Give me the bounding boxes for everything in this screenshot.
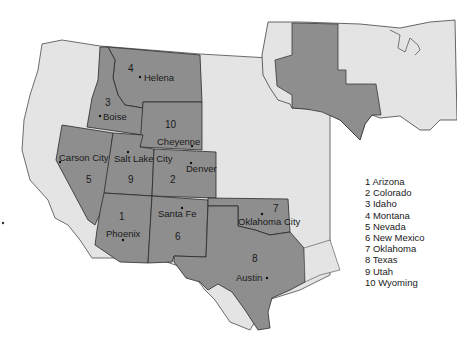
state-number-8: 8 (252, 253, 258, 264)
legend-item: 5 Nevada (365, 221, 425, 232)
capital-helena: Helena (144, 72, 175, 83)
state-number-3: 3 (105, 97, 111, 108)
western-states-map: 4 3 10 5 9 2 1 6 7 8 Helena Boise Cheyen… (0, 0, 457, 343)
capital-cheyenne: Cheyenne (157, 136, 200, 147)
state-new-mexico[interactable] (148, 196, 208, 263)
state-number-1: 1 (119, 211, 125, 222)
legend-item: 2 Colorado (365, 187, 425, 198)
capital-carson-city: Carson City (59, 152, 109, 163)
capital-dot-phoenix (122, 239, 124, 241)
capital-salt-lake-city: Salt Lake City (114, 153, 173, 164)
capital-dot-helena (139, 76, 141, 78)
capital-dot-austin (266, 277, 268, 279)
capital-dot-oklahoma-city (261, 213, 263, 215)
capital-austin: Austin (236, 272, 262, 283)
capital-phoenix: Phoenix (106, 228, 141, 239)
legend-item: 10 Wyoming (365, 277, 425, 288)
state-number-4: 4 (128, 63, 134, 74)
state-number-6: 6 (175, 231, 181, 242)
state-number-9: 9 (128, 174, 134, 185)
state-number-7: 7 (273, 203, 279, 214)
state-number-10: 10 (165, 119, 177, 130)
state-number-2: 2 (170, 174, 176, 185)
capital-boise: Boise (103, 111, 127, 122)
legend-item: 1 Arizona (365, 176, 425, 187)
legend-item: 7 Oklahoma (365, 243, 425, 254)
legend-item: 6 New Mexico (365, 232, 425, 243)
state-legend: 1 Arizona 2 Colorado 3 Idaho 4 Montana 5… (365, 176, 425, 288)
legend-item: 8 Texas (365, 254, 425, 265)
legend-item: 3 Idaho (365, 198, 425, 209)
state-number-5: 5 (86, 174, 92, 185)
legend-item: 4 Montana (365, 210, 425, 221)
capital-dot-boise (99, 115, 101, 117)
capital-santa-fe: Santa Fe (158, 208, 197, 219)
capital-oklahoma-city: Oklahoma City (238, 216, 301, 227)
legend-item: 9 Utah (365, 266, 425, 277)
island-marker (2, 222, 4, 224)
capital-denver: Denver (186, 163, 217, 174)
